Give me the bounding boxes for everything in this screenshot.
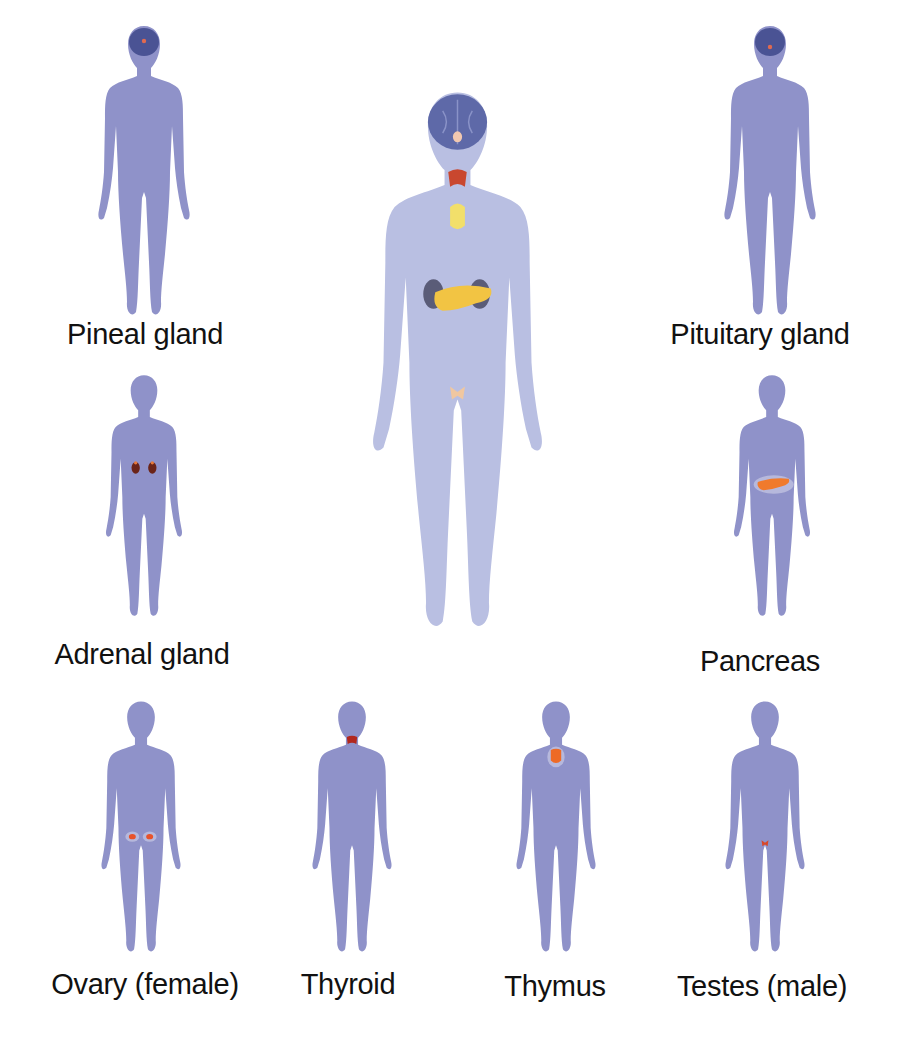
testes-label: Testes (male) xyxy=(677,970,847,1003)
pituitary-gland-icon xyxy=(768,45,772,49)
thymus-icon xyxy=(551,749,561,763)
pituitary-gland-figure xyxy=(720,22,820,322)
thyroid-figure xyxy=(302,698,402,958)
adrenal-gland-label: Adrenal gland xyxy=(54,638,229,671)
pituitary-gland-label: Pituitary gland xyxy=(670,318,849,351)
ovary-left-icon xyxy=(129,834,136,839)
thymus-icon xyxy=(450,203,465,229)
pineal-gland-label: Pineal gland xyxy=(67,318,223,351)
pineal-gland-icon xyxy=(142,39,146,43)
thymus-figure xyxy=(506,698,606,958)
central-body-figure xyxy=(355,85,560,640)
pineal-gland-figure xyxy=(94,22,194,322)
pancreas-label: Pancreas xyxy=(700,645,820,678)
thyroid-label: Thyroid xyxy=(301,968,396,1001)
testes-figure xyxy=(715,698,815,958)
ovary-figure xyxy=(91,698,191,958)
adrenal-gland-figure xyxy=(94,372,194,622)
thymus-label: Thymus xyxy=(504,970,605,1003)
pancreas-figure xyxy=(722,372,822,622)
pituitary-icon xyxy=(453,131,462,142)
ovary-right-icon xyxy=(146,834,153,839)
ovary-label: Ovary (female) xyxy=(51,968,239,1001)
